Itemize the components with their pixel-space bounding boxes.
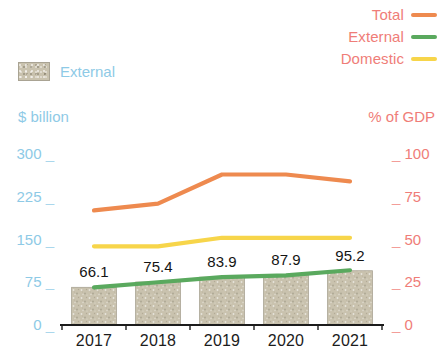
bar-2019[interactable] xyxy=(200,277,245,325)
bar-2020[interactable] xyxy=(264,275,309,325)
x-label-2019: 2019 xyxy=(192,332,252,350)
x-label-2018: 2018 xyxy=(128,332,188,350)
line-total[interactable] xyxy=(94,175,350,211)
x-label-2020: 2020 xyxy=(256,332,316,350)
line-domestic[interactable] xyxy=(94,238,350,247)
bar-2017[interactable] xyxy=(72,287,117,325)
axis-group xyxy=(60,325,384,330)
bar-2021[interactable] xyxy=(328,271,373,325)
bar-value-2019: 83.9 xyxy=(192,253,252,270)
x-label-2021: 2021 xyxy=(320,332,380,350)
bar-value-2021: 95.2 xyxy=(320,247,380,264)
plot-area xyxy=(0,0,443,356)
x-label-2017: 2017 xyxy=(64,332,124,350)
bar-value-2020: 87.9 xyxy=(256,251,316,268)
bar-value-2017: 66.1 xyxy=(64,263,124,280)
chart-container: Total External Domestic External $ billi… xyxy=(0,0,443,356)
bar-value-2018: 75.4 xyxy=(128,258,188,275)
bar-2018[interactable] xyxy=(136,282,181,325)
